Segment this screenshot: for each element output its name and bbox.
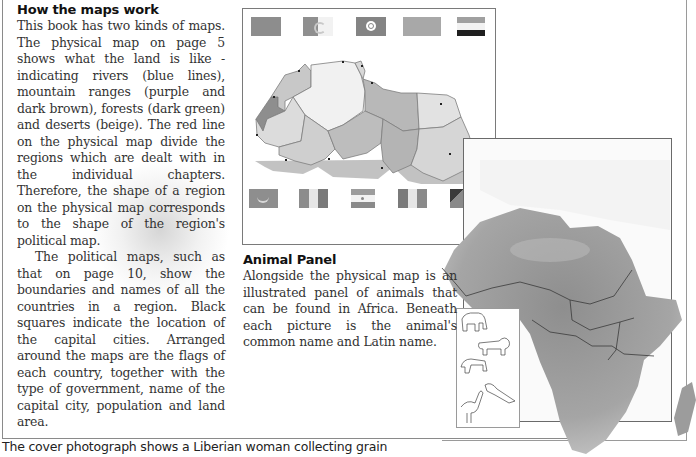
animal-panel [456,308,520,428]
mali-flag-icon [299,189,328,208]
animal-panel-paragraph: Alongside the physical map is an illustr… [243,268,457,351]
niger-flag-icon [351,189,375,208]
page-frame-left [2,0,3,439]
egypt-flag-icon [457,17,485,36]
how-maps-work-section: How the maps work This book has two kind… [17,1,225,431]
libya-flag-icon [403,17,441,36]
crocodile-icon [485,384,515,403]
ostrich-icon [461,391,483,423]
animal-panel-section: Animal Panel Alongside the physical map … [243,251,457,351]
mauritania-flag-icon [249,189,278,208]
morocco-flag-icon [251,17,281,36]
cover-photo-caption: The cover photograph shows a Liberian wo… [2,439,387,454]
elephant-icon [462,313,487,331]
how-maps-work-paragraph-2: The political maps, such as that on page… [17,249,225,431]
algeria-flag-icon [303,17,333,36]
wildebeest-icon [461,359,487,373]
how-maps-work-paragraph-1: This book has two kinds of maps. The phy… [17,18,225,249]
animal-illustrations [457,309,519,427]
how-maps-work-heading: How the maps work [17,1,225,18]
tunisia-flag-icon [356,17,386,36]
animal-panel-heading: Animal Panel [243,251,457,268]
lion-icon [479,338,510,355]
